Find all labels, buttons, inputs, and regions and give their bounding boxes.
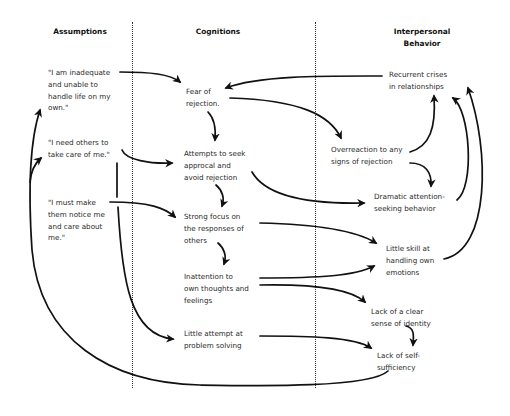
arrow-identity-to-selfsufficiency: [406, 326, 413, 345]
arrow-inadequate-to-fear: [120, 72, 180, 82]
arrow-crises-to-fear: [226, 76, 382, 88]
arrow-selfsufficiency-to-inadequate: [30, 110, 388, 386]
arrow-mustmake-to-problem-solving: [118, 207, 173, 339]
arrow-dramatic-to-crises: [453, 98, 468, 200]
arrow-overreaction-to-crises: [410, 96, 434, 152]
arrow-focus-to-inattention: [218, 243, 225, 264]
arrow-fear-to-overreaction: [230, 98, 341, 138]
arrow-needothers-to-attempts: [122, 150, 172, 163]
arrows-layer: [0, 0, 510, 416]
arrow-inattention-to-identity: [260, 285, 365, 302]
arrow-inattention-to-littleskill: [260, 266, 374, 278]
arrow-attempts-to-focus: [216, 185, 223, 206]
arrow-fear-to-attempts: [208, 112, 215, 140]
arrow-overreaction-to-dramatic: [410, 163, 431, 186]
arrow-attempts-to-dramatic: [252, 172, 364, 203]
arrow-focus-to-littleskill: [260, 223, 376, 243]
arrow-problemsolving-to-selfsufficiency: [260, 336, 371, 348]
arrow-mustmake-to-focus: [110, 202, 175, 217]
